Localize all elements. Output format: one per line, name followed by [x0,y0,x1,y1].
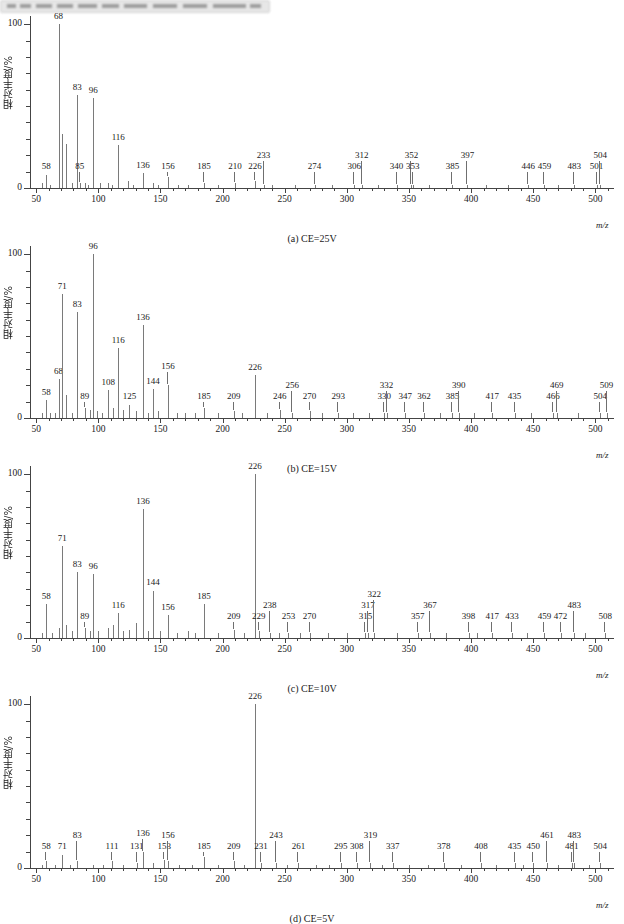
x-axis-title: m/z [596,670,609,680]
peak-label: 459 [538,612,552,621]
x-tick [384,868,385,871]
x-tick [583,418,584,421]
x-tick [334,188,335,191]
peak-label: 508 [599,612,613,621]
peak-line [605,633,606,638]
peak-line [298,863,299,868]
peak-label: 156 [161,162,175,171]
peak-label: 116 [112,601,125,610]
peak-line [93,865,94,868]
peak-line [357,863,358,868]
x-tick-label: 100 [91,195,105,205]
peak-line [179,865,180,868]
peak-label: 435 [508,842,522,851]
peak-line [185,413,186,418]
x-tick [160,868,161,873]
peak-label: 433 [505,612,519,621]
peak-label: 83 [73,83,82,92]
peak-line [62,546,63,638]
x-tick [160,638,161,643]
x-tick [86,638,87,641]
peak-label: 226 [248,363,262,372]
label-leader-line [451,172,452,184]
label-leader-line [260,852,261,862]
x-tick-label: 400 [464,875,478,885]
peak-label: 270 [303,612,317,621]
peak-line [129,630,130,638]
x-tick [285,868,286,873]
peak-line [276,863,277,868]
x-tick [111,188,112,191]
peak-line [259,631,260,638]
peak-label: 153 [157,842,171,851]
x-tick [484,638,485,641]
x-tick-label: 200 [215,425,229,435]
label-leader-line [417,622,418,632]
peak-label: 116 [112,336,125,345]
peak-line [129,405,130,418]
peak-line [77,572,78,638]
label-leader-line [76,841,77,860]
x-tick [185,188,186,191]
y-tick-label: 100 [8,249,22,259]
x-tick [223,638,224,643]
x-tick [210,418,211,421]
y-tick [26,303,30,304]
x-tick [235,418,236,421]
x-tick [61,188,62,191]
x-tick [384,188,385,191]
peak-line [50,185,51,188]
x-tick [36,868,37,873]
peak-line [370,863,371,868]
label-leader-line [340,852,341,862]
x-tick [272,868,273,871]
peak-label: 450 [526,842,540,851]
x-tick [508,638,509,641]
x-tick [297,868,298,871]
x-tick [285,418,286,423]
x-tick [496,638,497,641]
peak-label: 469 [550,381,564,390]
x-tick [260,418,261,421]
x-tick [322,868,323,871]
x-tick [73,418,74,421]
x-tick [272,418,273,421]
x-tick [310,418,311,421]
peak-label: 226 [248,692,262,701]
label-leader-line [573,611,574,632]
x-tick [533,418,534,423]
x-tick [322,418,323,421]
peak-line [446,633,447,638]
label-leader-line [573,172,574,184]
spectrum-panel-a: 相对丰度/%010050100150200250300350400450500m… [0,8,624,236]
y-tick [26,721,30,722]
x-tick [260,188,261,191]
peak-line [264,185,265,188]
y-tick [26,819,30,820]
peak-label: 481 [565,842,579,851]
peak-line [316,865,317,868]
peak-label: 253 [282,612,296,621]
x-tick [434,188,435,191]
peak-line [515,413,516,418]
peak-label: 210 [228,162,242,171]
y-tick [26,605,30,606]
x-tick-label: 200 [215,645,229,655]
peak-line [85,183,86,188]
x-tick [583,188,584,191]
y-tick [26,139,30,140]
x-tick [272,188,273,191]
peak-line [365,633,366,638]
peak-label: 226 [248,162,262,171]
label-leader-line [364,622,365,632]
x-tick [595,188,596,193]
x-tick [260,638,261,641]
peak-line [88,185,89,188]
y-tick [24,638,30,639]
peak-line [597,185,598,188]
x-tick-label: 250 [278,425,292,435]
y-tick [26,271,30,272]
x-tick [73,188,74,191]
x-tick [148,188,149,191]
x-tick-label: 150 [153,875,167,885]
